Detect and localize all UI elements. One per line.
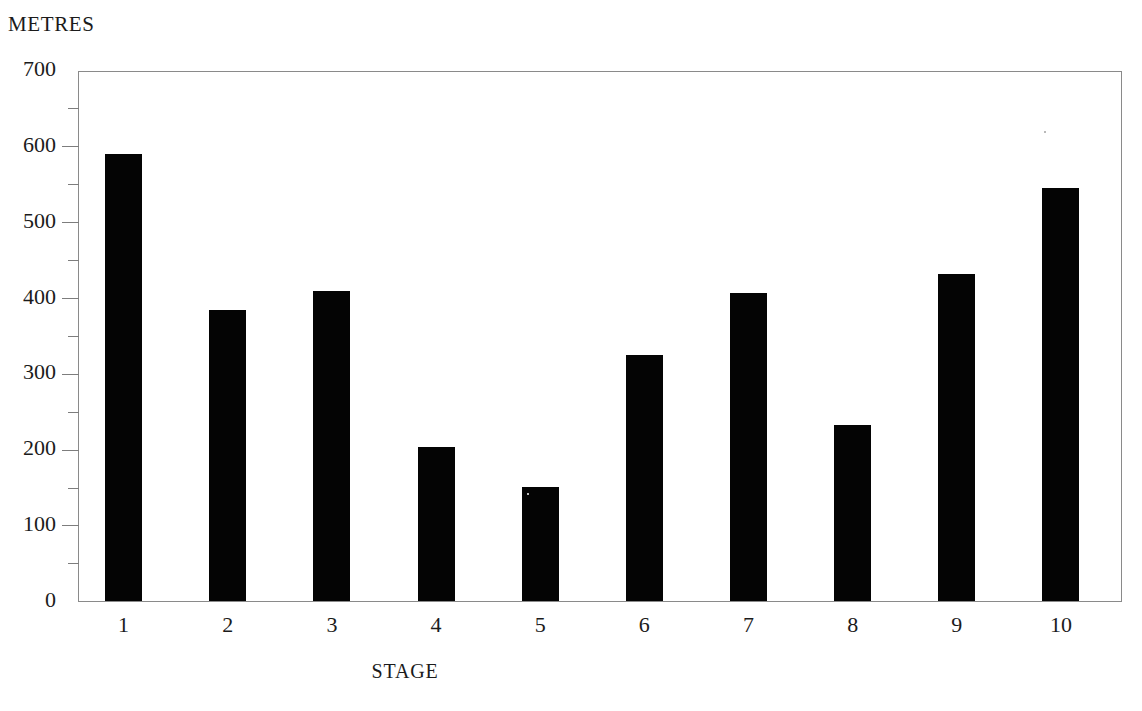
x-tick-label: 1 [94, 612, 154, 638]
x-tick-label: 6 [614, 612, 674, 638]
x-axis-caption: STAGE [0, 660, 810, 683]
scan-speck [1044, 131, 1046, 133]
x-tick-label: 4 [406, 612, 466, 638]
y-tick-label: 600 [0, 132, 56, 158]
y-tick-minor [68, 488, 79, 489]
y-tick-major [62, 146, 79, 147]
y-tick-major [62, 374, 79, 375]
y-tick-major [62, 298, 79, 299]
y-tick-label: 500 [0, 208, 56, 234]
y-tick-major [62, 525, 79, 526]
y-tick-label: 400 [0, 284, 56, 310]
bar-chart: METRES 0100200300400500600700 1234567891… [0, 0, 1142, 711]
scan-speck [527, 493, 529, 495]
y-axis-caption: METRES [8, 12, 94, 37]
y-tick-label: 100 [0, 511, 56, 537]
x-tick-label: 7 [718, 612, 778, 638]
bar [313, 291, 350, 601]
bar [730, 293, 767, 601]
y-tick-major [62, 222, 79, 223]
bar [522, 487, 559, 601]
y-tick-label: 0 [0, 587, 56, 613]
y-tick-label: 200 [0, 435, 56, 461]
bar [626, 355, 663, 601]
x-tick-label: 3 [302, 612, 362, 638]
y-tick-label: 300 [0, 359, 56, 385]
y-tick-minor [68, 260, 79, 261]
x-tick-label: 8 [823, 612, 883, 638]
bar [209, 310, 246, 601]
bar [1042, 188, 1079, 601]
y-tick-label: 700 [0, 56, 56, 82]
x-tick-label: 9 [927, 612, 987, 638]
bar [834, 425, 871, 602]
bar [418, 447, 455, 602]
y-tick-minor [68, 108, 79, 109]
y-tick-major [62, 450, 79, 451]
x-tick-label: 2 [198, 612, 258, 638]
y-tick-minor [68, 336, 79, 337]
x-tick-label: 5 [510, 612, 570, 638]
bar [938, 274, 975, 601]
bar [105, 154, 142, 601]
bars-container [80, 72, 1121, 601]
x-tick-label: 10 [1031, 612, 1091, 638]
y-tick-minor [68, 184, 79, 185]
y-tick-minor [68, 412, 79, 413]
y-tick-minor [68, 563, 79, 564]
